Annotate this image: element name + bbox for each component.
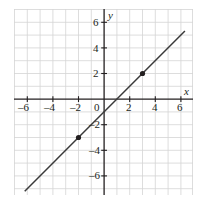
- y-tick-label-4: 4: [93, 43, 99, 54]
- x-axis-label: x: [184, 86, 189, 97]
- x-tick-label-neg4: –4: [44, 102, 55, 113]
- y-tick-label-neg6: –6: [89, 170, 100, 181]
- plot-area: –6 –4 –2 0 2 4 6 6 4 2 –2 –4 –6 y x: [14, 9, 193, 195]
- x-tick-label-neg6: –6: [18, 102, 29, 113]
- y-tick-label-2: 2: [93, 68, 99, 79]
- x-tick-label-2: 2: [126, 102, 132, 113]
- y-tick-label-neg4: –4: [89, 145, 100, 156]
- data-point: [140, 71, 145, 76]
- y-tick-label-6: 6: [93, 17, 99, 28]
- graph-figure: –6 –4 –2 0 2 4 6 6 4 2 –2 –4 –6 y x: [0, 0, 204, 199]
- x-tick-label-6: 6: [177, 102, 183, 113]
- x-tick-label-zero: 0: [94, 102, 100, 113]
- x-tick-label-4: 4: [152, 102, 158, 113]
- data-point: [76, 135, 81, 140]
- y-axis-label: y: [108, 10, 113, 21]
- x-tick-label-neg2: –2: [70, 102, 81, 113]
- data-layer: [14, 9, 193, 195]
- y-tick-label-neg2: –2: [89, 119, 100, 130]
- axes: [14, 9, 193, 195]
